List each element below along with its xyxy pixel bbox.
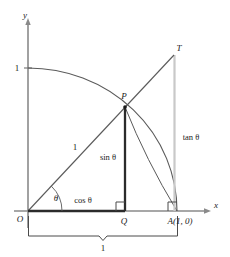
- sin-theta-label: sin θ: [100, 153, 116, 162]
- point-label-P: P: [121, 92, 127, 101]
- diagram-canvas: [0, 0, 230, 257]
- bracket-span: [29, 236, 178, 241]
- cos-theta-label: cos θ: [74, 196, 92, 205]
- x-axis-arrowhead: [204, 208, 211, 213]
- point-label-Q: Q: [121, 217, 128, 226]
- ray-O-to-T: [28, 55, 174, 211]
- point-label-A: A(1, 0): [168, 217, 193, 226]
- x-axis-label: x: [214, 201, 218, 210]
- y-unit-tick-label: 1: [15, 64, 20, 73]
- point-label-T: T: [176, 44, 181, 53]
- length-bracket-group: [29, 216, 178, 241]
- point-marker-P: [123, 105, 127, 109]
- angle-theta-label: θ: [54, 194, 58, 203]
- right-angle-marker-Q: [116, 202, 125, 211]
- tan-theta-label: tan θ: [183, 133, 200, 142]
- chord-arc-P-to-A: [125, 107, 177, 211]
- radius-length-label: 1: [73, 143, 78, 152]
- point-label-origin: O: [17, 215, 24, 224]
- unit-circle-arc: [28, 68, 177, 211]
- figure-container: y x O 1 P Q A(1, 0) T 1 θ cos θ sin θ ta…: [0, 0, 230, 257]
- y-axis-label: y: [23, 11, 27, 20]
- bracket-length-label: 1: [101, 244, 106, 253]
